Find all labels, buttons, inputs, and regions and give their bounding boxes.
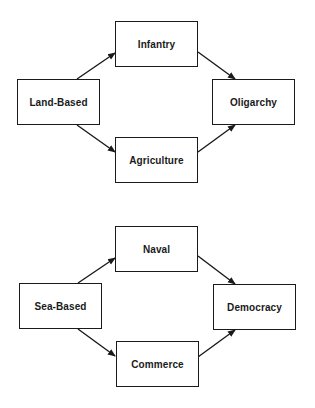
node-oligarchy: Oligarchy [212, 79, 295, 125]
node-label: Oligarchy [230, 97, 277, 108]
node-naval: Naval [115, 226, 198, 272]
arrow-infantry-to-oligarchy [198, 52, 235, 79]
arrow-commerce-to-democracy [198, 330, 235, 357]
node-label: Commerce [131, 359, 184, 370]
sea-based-diagram: Sea-Based Naval Commerce Democracy [0, 204, 315, 408]
node-commerce: Commerce [116, 341, 199, 387]
node-label: Naval [143, 244, 170, 255]
node-label: Sea-Based [34, 301, 86, 312]
node-label: Land-Based [29, 97, 87, 108]
node-label: Democracy [227, 302, 282, 313]
land-based-diagram: Land-Based Infantry Agriculture Oligarch… [0, 0, 315, 204]
node-label: Agriculture [129, 155, 183, 166]
arrow-land-to-agriculture [77, 125, 115, 152]
arrow-sea-to-naval [78, 258, 115, 283]
node-land-based: Land-Based [17, 79, 100, 125]
arrow-agriculture-to-oligarchy [198, 125, 235, 152]
node-label: Infantry [138, 39, 175, 50]
arrow-naval-to-democracy [198, 256, 235, 284]
node-infantry: Infantry [115, 21, 198, 67]
arrow-land-to-infantry [77, 53, 115, 79]
arrow-sea-to-commerce [78, 329, 115, 356]
node-agriculture: Agriculture [115, 137, 198, 183]
node-sea-based: Sea-Based [19, 283, 102, 329]
node-democracy: Democracy [213, 284, 296, 330]
